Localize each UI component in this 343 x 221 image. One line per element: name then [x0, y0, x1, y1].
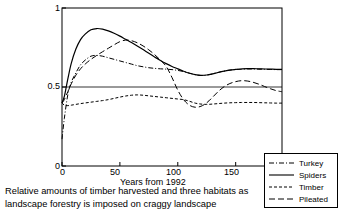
legend-label-timber: Timber — [299, 183, 324, 192]
y-tick-label-0: 0 — [44, 161, 60, 171]
legend-item-timber: Timber — [265, 181, 337, 193]
legend-item-spiders: Spiders — [265, 169, 337, 181]
y-tick-label-0.5: 0.5 — [38, 81, 60, 91]
x-tick-label-100: 100 — [166, 167, 181, 177]
legend-item-turkey: Turkey — [265, 157, 337, 169]
caption-line-2: landscape forestry is imposed on craggy … — [5, 198, 260, 211]
chart-figure: 1 0.5 0 0 50 100 150 Years from 1992 Tur… — [0, 0, 343, 221]
figure-caption: Relative amounts of timber harvested and… — [5, 185, 260, 210]
series-line-timber — [62, 95, 282, 106]
legend-swatch-pileated — [268, 194, 295, 204]
legend-swatch-spiders — [268, 170, 295, 180]
legend-swatch-turkey — [268, 158, 295, 168]
series-line-turkey — [62, 55, 282, 139]
legend-label-pileated: Pileated — [299, 195, 328, 204]
legend-item-pileated: Pileated — [265, 193, 337, 205]
legend-label-turkey: Turkey — [299, 159, 323, 168]
y-tick-label-1: 1 — [44, 3, 60, 13]
caption-line-1: Relative amounts of timber harvested and… — [5, 185, 260, 198]
legend-swatch-timber — [268, 182, 295, 192]
chart-legend: Turkey Spiders Timber Pileated — [264, 153, 338, 208]
series-line-pileated — [62, 40, 282, 107]
x-tick-label-50: 50 — [110, 167, 120, 177]
legend-label-spiders: Spiders — [299, 171, 326, 180]
series-line-spiders — [62, 29, 282, 103]
x-tick-label-0: 0 — [60, 167, 65, 177]
x-tick-label-150: 150 — [224, 167, 239, 177]
